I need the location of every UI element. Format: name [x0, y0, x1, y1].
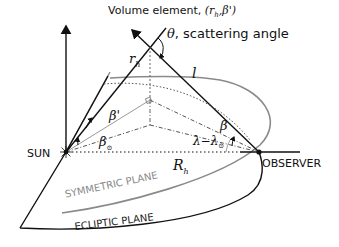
symmetric-plane-outline [66, 72, 110, 182]
R-h-label: Rh [173, 158, 189, 176]
lambda-diff-label: λ−λ⊙ [193, 135, 224, 150]
scattering-angle-label: θ, scattering angle [167, 27, 289, 40]
l-label: l [192, 66, 196, 80]
observer-point [256, 149, 261, 154]
r-h-label: rh [129, 52, 140, 69]
sun-icon [60, 146, 72, 158]
volume-element-label: Volume element, (rh,β') [108, 5, 236, 19]
beta-prime-label: β' [109, 109, 120, 122]
observer-label: OBSERVER [262, 158, 321, 169]
beta-sun-label: β⊙ [99, 135, 112, 152]
beta-label: β [220, 119, 228, 132]
sun-label: SUN [27, 148, 50, 159]
r-h-line [66, 28, 166, 152]
zodiacal-light-geometry-diagram: Volume element, (rh,β') θ, scattering an… [0, 0, 339, 247]
